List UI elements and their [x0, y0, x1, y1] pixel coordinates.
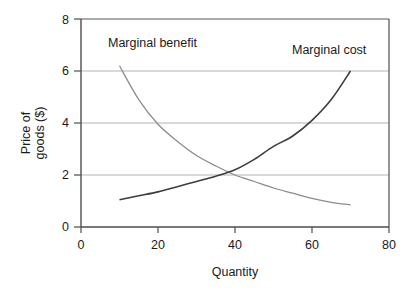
y-tick-label-0: 0	[62, 220, 69, 234]
x-tick-label-0: 0	[78, 238, 85, 252]
x-tick-label-20: 20	[151, 238, 165, 252]
y-tick-label-4: 4	[62, 116, 69, 130]
y-tick-label-8: 8	[62, 13, 69, 27]
chart-container: 0 2 4 6 8 0 20 40 60 80 Marginal benefit…	[0, 0, 416, 296]
x-tick-label-40: 40	[228, 238, 242, 252]
marginal-benefit-label: Marginal benefit	[108, 36, 197, 50]
marginal-cost-label: Marginal cost	[292, 43, 367, 57]
economics-line-chart: 0 2 4 6 8 0 20 40 60 80 Marginal benefit…	[0, 0, 416, 296]
y-tick-label-6: 6	[62, 64, 69, 78]
y-axis-title: Price of goods ($)	[19, 107, 47, 160]
x-tick-label-80: 80	[382, 238, 396, 252]
y-axis-title-line2: goods ($)	[33, 107, 47, 160]
y-axis-title-line1: Price of	[19, 111, 33, 154]
x-axis-title: Quantity	[212, 265, 259, 279]
x-tick-label-60: 60	[305, 238, 319, 252]
y-tick-label-2: 2	[62, 168, 69, 182]
